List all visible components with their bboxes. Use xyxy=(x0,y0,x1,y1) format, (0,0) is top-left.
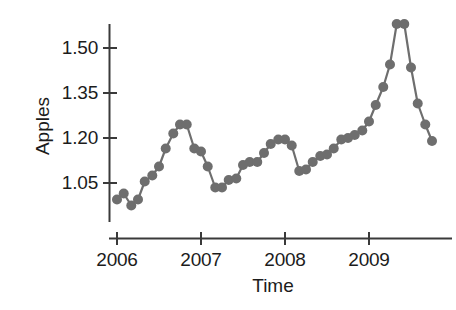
data-point xyxy=(420,120,430,130)
data-point xyxy=(161,144,171,154)
chart-figure: 1.051.201.351.50 2006200720082009 Apples… xyxy=(0,0,456,310)
data-point xyxy=(182,120,192,130)
y-tick-label: 1.35 xyxy=(62,82,98,104)
data-point xyxy=(378,82,388,92)
data-point xyxy=(406,63,416,73)
data-point xyxy=(399,19,409,29)
x-axis-title-text: Time xyxy=(252,275,294,296)
x-tick-label: 2007 xyxy=(180,249,221,271)
data-point xyxy=(357,126,367,136)
data-point xyxy=(196,147,206,157)
x-tick-label: 2006 xyxy=(96,249,137,271)
data-point xyxy=(147,171,157,181)
x-axis-title: Time xyxy=(0,275,456,297)
data-point xyxy=(301,165,311,175)
data-point xyxy=(168,129,178,139)
y-axis-title: Apples xyxy=(32,97,54,155)
data-point xyxy=(413,99,423,109)
y-tick-label: 1.05 xyxy=(62,172,98,194)
data-point xyxy=(119,189,129,199)
axis-lines xyxy=(109,24,452,239)
data-point xyxy=(385,60,395,70)
y-tick-label: 1.50 xyxy=(62,37,98,59)
data-point xyxy=(231,174,241,184)
series-line-apples xyxy=(117,24,432,206)
data-point xyxy=(371,100,381,110)
data-point xyxy=(364,117,374,127)
data-point xyxy=(133,195,143,205)
x-tick-label: 2009 xyxy=(348,249,389,271)
data-point xyxy=(252,157,262,167)
x-tick-label: 2008 xyxy=(264,249,305,271)
series-markers-apples xyxy=(112,19,437,211)
data-point xyxy=(329,144,339,154)
data-point xyxy=(154,162,164,172)
y-tick-label: 1.20 xyxy=(62,127,98,149)
data-point xyxy=(203,162,213,172)
data-point xyxy=(287,141,297,151)
data-point xyxy=(259,148,269,158)
data-point xyxy=(427,136,437,146)
data-point xyxy=(217,183,227,193)
